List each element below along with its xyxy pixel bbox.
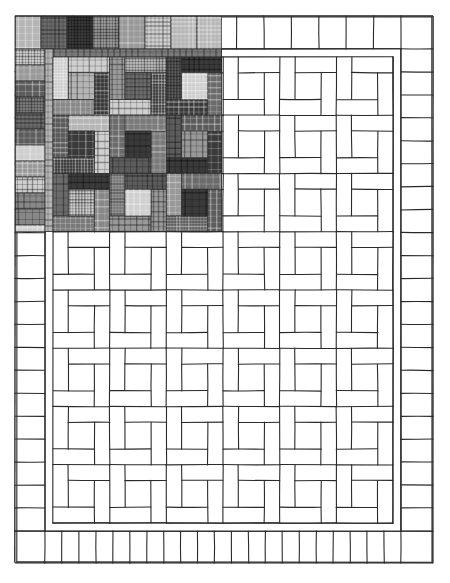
quilt-illustration [0, 0, 450, 583]
quilt-drawing [0, 0, 450, 583]
plaid-fabric-patch [15, 16, 223, 290]
